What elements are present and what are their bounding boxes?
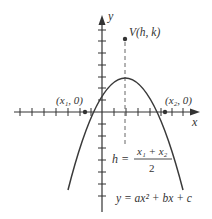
parabola-diagram: x y V(h, k) (x₁, 0) (x₂, 0) xyxy=(0,0,212,219)
x-axis: x xyxy=(14,108,200,129)
right-intercept-point xyxy=(163,110,167,114)
h-formula-numerator: x₁ + x₂ xyxy=(136,145,168,157)
left-intercept-label: (x₁, 0) xyxy=(56,94,83,107)
left-intercept-point xyxy=(83,110,87,114)
vertex-label: V(h, k) xyxy=(129,26,160,39)
x-axis-label: x xyxy=(191,115,198,129)
y-axis: y xyxy=(98,9,114,212)
y-axis-arrow-icon xyxy=(99,15,106,25)
y-axis-label: y xyxy=(107,9,114,23)
vertex-x-formula: h = x₁ + x₂ 2 xyxy=(112,145,172,174)
parabola-equation: y = ax² + bx + c xyxy=(115,192,192,205)
h-formula-lhs: h = xyxy=(112,152,129,166)
h-formula-denominator: 2 xyxy=(149,162,155,174)
vertex-point xyxy=(123,37,127,41)
right-intercept-label: (x₂, 0) xyxy=(165,94,192,107)
